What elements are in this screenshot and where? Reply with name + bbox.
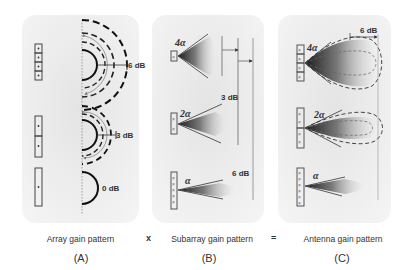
svg-text:×: ×: [298, 111, 301, 117]
beamwidth-4a-c: 4α: [306, 42, 318, 53]
gain-label-6db: 6 dB: [128, 61, 146, 70]
gain-label-0db: 0 dB: [102, 184, 120, 193]
beamwidth-1a: α: [185, 175, 191, 186]
svg-text:×: ×: [172, 199, 175, 205]
caption-antenna-gain: Antenna gain pattern: [288, 234, 398, 244]
multiply-operator: x: [146, 233, 151, 243]
svg-text:×: ×: [172, 126, 175, 132]
diagram-canvas: 6 dB 3 dB 0 dB: [0, 0, 407, 270]
gain-label-3db: 3 dB: [116, 131, 134, 140]
panel-a-background: [22, 15, 139, 223]
svg-text:×: ×: [298, 65, 301, 71]
gain-label-3db-b: 3 dB: [221, 93, 239, 102]
svg-text:×: ×: [298, 119, 301, 125]
caption-subarray-gain: Subarray gain pattern: [158, 234, 266, 244]
svg-text:×: ×: [298, 131, 301, 137]
svg-text:×: ×: [298, 47, 301, 53]
svg-text:×: ×: [298, 139, 301, 145]
svg-text:×: ×: [298, 200, 301, 206]
beamwidth-2a-c: 2α: [313, 109, 325, 120]
svg-text:×: ×: [172, 116, 175, 122]
svg-text:×: ×: [298, 74, 301, 80]
equals-operator: =: [271, 233, 276, 243]
label-c: (C): [327, 252, 357, 264]
gain-label-6db-c: 6 dB: [360, 26, 378, 35]
svg-text:×: ×: [172, 54, 175, 60]
label-b: (B): [194, 252, 224, 264]
beamwidth-1a-c: α: [313, 170, 319, 181]
beamwidth-2a: 2α: [179, 108, 191, 119]
svg-text:×: ×: [298, 56, 301, 62]
beamwidth-4a: 4α: [174, 37, 186, 48]
label-a: (A): [66, 252, 96, 264]
gain-label-6db-b: 6 dB: [232, 169, 250, 178]
caption-array-gain: Array gain pattern: [22, 234, 139, 244]
